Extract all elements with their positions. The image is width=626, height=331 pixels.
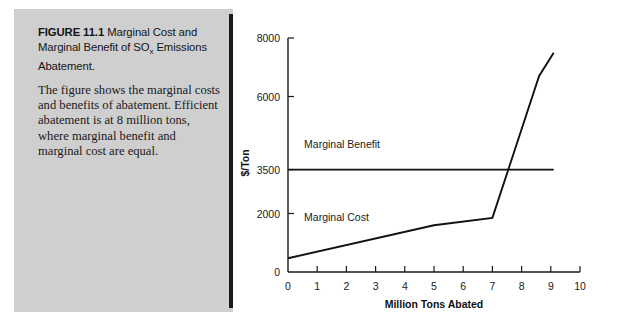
y-tick-label: 3500 (257, 164, 281, 176)
series-label-marginal-cost: Marginal Cost (304, 211, 369, 223)
x-tick-label: 3 (373, 280, 379, 292)
figure-description: The figure shows the marginal costs and … (38, 83, 220, 159)
x-axis-title: Million Tons Abated (385, 298, 484, 310)
series-label-marginal-benefit: Marginal Benefit (304, 138, 380, 150)
x-tick-label: 5 (431, 280, 437, 292)
x-tick-label: 10 (574, 280, 586, 292)
figure-number: FIGURE 11.1 (38, 26, 104, 38)
x-tick-label: 0 (285, 280, 291, 292)
y-axis-title: $/Ton (239, 149, 251, 176)
x-tick-label: 1 (314, 280, 320, 292)
figure-title: FIGURE 11.1 Marginal Cost and Marginal B… (38, 25, 220, 74)
figure-root: FIGURE 11.1 Marginal Cost and Marginal B… (0, 0, 626, 331)
x-tick-label: 4 (402, 280, 408, 292)
marginal-cost-benefit-chart: 02000350060008000012345678910Marginal Be… (233, 9, 612, 312)
y-tick-label: 8000 (257, 32, 281, 44)
caption-inner: FIGURE 11.1 Marginal Cost and Marginal B… (38, 25, 220, 159)
chart-panel: 02000350060008000012345678910Marginal Be… (233, 9, 612, 312)
x-tick-label: 8 (519, 280, 525, 292)
caption-panel: FIGURE 11.1 Marginal Cost and Marginal B… (14, 9, 233, 312)
x-tick-label: 2 (343, 280, 349, 292)
y-tick-label: 0 (274, 266, 280, 278)
x-tick-label: 6 (460, 280, 466, 292)
x-tick-label: 9 (548, 280, 554, 292)
series-line-marginal-cost (288, 53, 554, 259)
x-tick-label: 7 (489, 280, 495, 292)
y-tick-label: 2000 (257, 208, 281, 220)
y-tick-label: 6000 (257, 91, 281, 103)
